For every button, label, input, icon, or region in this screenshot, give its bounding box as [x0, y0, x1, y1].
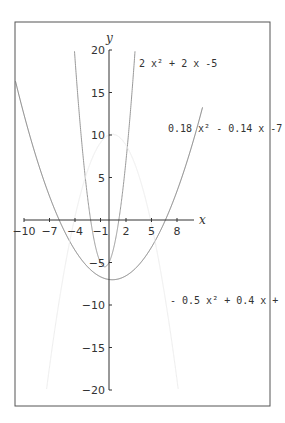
y-axis-label: y — [105, 31, 113, 45]
y-tick-label: −20 — [82, 384, 105, 397]
x-axis-label: x — [199, 213, 206, 227]
x-tick-label: 5 — [148, 225, 155, 238]
legend-label-3: - 0.5 x² + 0.4 x + 10 — [170, 295, 285, 306]
legend-label-2: 0.18 x² - 0.14 x -7 — [168, 123, 282, 134]
x-tick-label: −7 — [41, 225, 57, 238]
y-tick-label: −5 — [89, 257, 105, 270]
x-tick-label: −1 — [92, 225, 108, 238]
x-tick-label: −4 — [67, 225, 83, 238]
y-tick-label: 10 — [91, 129, 105, 142]
x-tick-label: −10 — [12, 225, 35, 238]
parabola-chart: x y −10−7−4−1258 2015105−5−10−15−20 2 x²… — [0, 0, 285, 423]
y-tick-label: −10 — [82, 299, 105, 312]
plot-frame — [15, 22, 270, 406]
x-tick-label: 2 — [123, 225, 130, 238]
y-tick-label: 5 — [98, 172, 105, 185]
legend-label-1: 2 x² + 2 x -5 — [139, 58, 217, 69]
y-tick-label: −15 — [82, 342, 105, 355]
x-tick-label: 8 — [174, 225, 181, 238]
y-tick-label: 20 — [91, 44, 105, 57]
y-tick-label: 15 — [91, 87, 105, 100]
